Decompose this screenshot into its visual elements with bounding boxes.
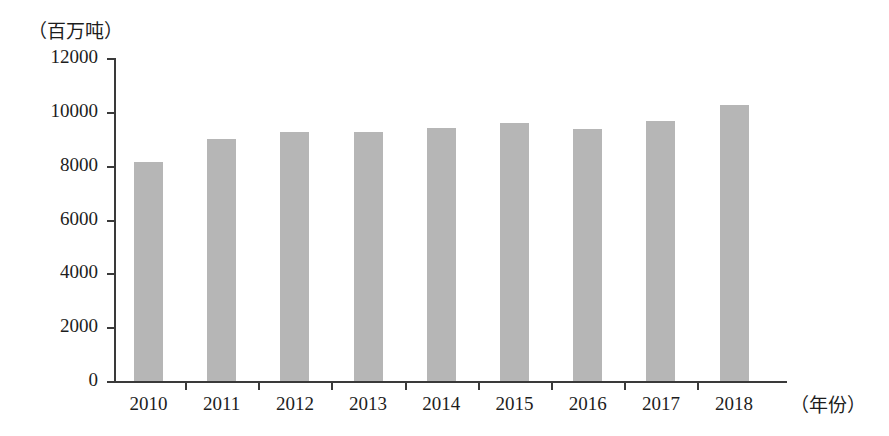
x-tick-label: 2015 xyxy=(485,394,545,413)
y-tick: 4000 xyxy=(107,273,116,275)
x-tick xyxy=(624,381,626,390)
x-tick-label: 2016 xyxy=(558,394,618,413)
x-tick xyxy=(551,381,553,390)
y-tick-label: 4000 xyxy=(60,262,98,281)
bar xyxy=(427,128,456,381)
bar xyxy=(720,105,749,381)
bar xyxy=(134,162,163,381)
y-tick-label: 2000 xyxy=(60,316,98,335)
x-tick-label: 2014 xyxy=(411,394,471,413)
x-axis-caption: （年份） xyxy=(790,390,866,417)
x-tick-label: 2011 xyxy=(192,394,252,413)
y-tick: 6000 xyxy=(107,220,116,222)
x-axis-line xyxy=(114,381,787,383)
y-tick-label: 0 xyxy=(89,370,99,389)
x-tick xyxy=(258,381,260,390)
x-tick xyxy=(478,381,480,390)
bar xyxy=(354,132,383,381)
y-tick-label: 8000 xyxy=(60,155,98,174)
y-tick-label: 12000 xyxy=(51,47,99,66)
x-tick xyxy=(331,381,333,390)
x-tick-label: 2017 xyxy=(631,394,691,413)
bar xyxy=(646,121,675,381)
y-tick: 0 xyxy=(107,381,116,383)
x-tick-label: 2010 xyxy=(119,394,179,413)
y-tick-label: 10000 xyxy=(51,101,99,120)
y-axis-unit-label: （百万吨） xyxy=(28,16,123,43)
x-tick xyxy=(405,381,407,390)
bar-chart: （百万吨） 020004000600080001000012000 201020… xyxy=(0,0,889,436)
x-tick-label: 2018 xyxy=(704,394,764,413)
bar xyxy=(500,123,529,381)
y-tick-label: 6000 xyxy=(60,209,98,228)
bar xyxy=(573,129,602,381)
x-tick-label: 2012 xyxy=(265,394,325,413)
x-tick xyxy=(697,381,699,390)
y-tick: 8000 xyxy=(107,166,116,168)
y-tick: 2000 xyxy=(107,327,116,329)
y-tick: 12000 xyxy=(107,58,116,60)
bar xyxy=(207,139,236,381)
x-tick xyxy=(185,381,187,390)
plot-area: 020004000600080001000012000 201020112012… xyxy=(114,58,787,383)
x-tick-label: 2013 xyxy=(338,394,398,413)
bar xyxy=(280,132,309,381)
y-tick: 10000 xyxy=(107,112,116,114)
